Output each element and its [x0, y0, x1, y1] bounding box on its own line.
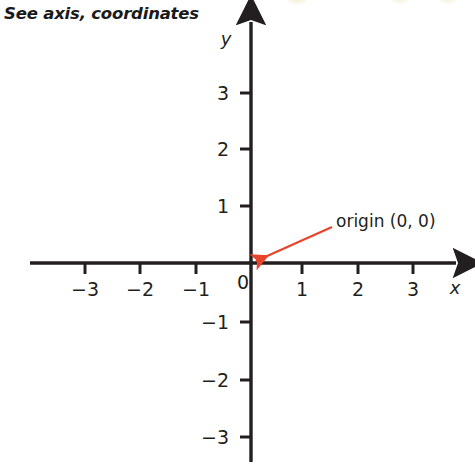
figure-canvas: See axis, coordinates −3 −2 −1 1 2 3: [0, 0, 475, 464]
y-axis-label: y: [220, 28, 232, 49]
x-tick-label-neg3: −3: [71, 278, 99, 300]
origin-tick-label: 0: [237, 271, 249, 293]
y-tick-label-pos2: 2: [217, 138, 229, 160]
coordinate-plane-diagram: −3 −2 −1 1 2 3 x 3 2 1 −1 −2 −3 y 0: [0, 0, 475, 464]
origin-annotation-arrow: [256, 227, 332, 261]
x-tick-label-pos2: 2: [352, 278, 364, 300]
y-tick-label-pos1: 1: [217, 195, 229, 217]
origin-annotation-label: origin (0, 0): [336, 211, 436, 231]
y-tick-label-neg2: −2: [201, 369, 229, 391]
y-tick-label-neg3: −3: [201, 426, 229, 448]
x-tick-label-neg1: −1: [182, 278, 210, 300]
y-tick-label-neg1: −1: [201, 311, 229, 333]
origin-annotation: origin (0, 0): [256, 211, 436, 261]
x-tick-label-pos3: 3: [407, 278, 419, 300]
x-tick-label-neg2: −2: [126, 278, 154, 300]
x-tick-label-pos1: 1: [296, 278, 308, 300]
y-tick-label-pos3: 3: [217, 82, 229, 104]
x-axis-label: x: [449, 277, 461, 298]
y-axis: 3 2 1 −1 −2 −3 y: [201, 22, 251, 462]
